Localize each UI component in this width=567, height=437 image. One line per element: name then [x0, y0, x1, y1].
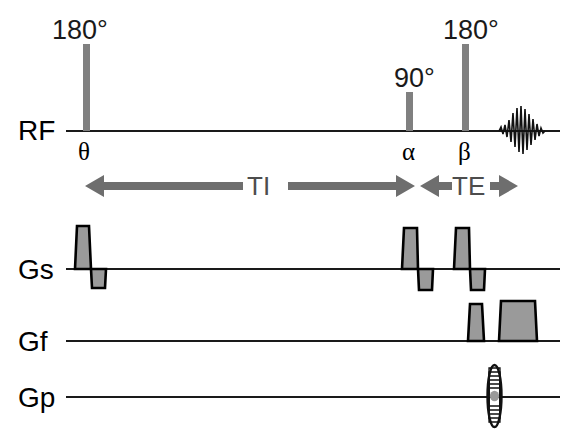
te-arrow-left	[420, 175, 452, 197]
gp-channel: Gp	[18, 365, 560, 427]
rf-pulse-refocus-phase-label: β	[458, 138, 471, 165]
te-arrow-right	[490, 175, 518, 197]
rf-pulse-refocus	[462, 44, 469, 131]
rf-pulse-inversion	[83, 44, 90, 131]
rf-pulse-inversion-phase-label: θ	[78, 138, 90, 165]
rf-pulse-refocus-flip-label: 180°	[443, 15, 499, 45]
gf-lobe-2	[499, 301, 537, 341]
te-label: TE	[452, 171, 485, 201]
gs-lobe-3	[402, 228, 418, 269]
gf-channel: Gf	[18, 301, 560, 357]
rf-channel-label: RF	[18, 115, 55, 146]
ti-arrow-left	[85, 175, 243, 197]
rf-channel: RF 180° θ 90° α 180° β	[18, 15, 560, 165]
gf-lobe-1	[468, 304, 484, 341]
interval-ti: TI	[85, 171, 415, 201]
pulse-sequence-diagram: RF 180° θ 90° α 180° β	[0, 0, 567, 437]
gs-channel-label: Gs	[18, 254, 54, 285]
gs-lobe-6	[470, 269, 485, 290]
gf-channel-label: Gf	[18, 326, 48, 357]
gs-lobe-1	[75, 226, 91, 269]
pulse-sequence-canvas: RF 180° θ 90° α 180° β	[0, 0, 567, 437]
rf-pulse-excitation	[406, 92, 413, 131]
interval-te: TE	[420, 171, 518, 201]
gs-lobe-2	[91, 269, 106, 288]
interval-arrows: TI TE	[85, 171, 518, 201]
rf-pulse-inversion-flip-label: 180°	[52, 15, 108, 45]
gs-lobe-5	[454, 228, 470, 269]
gs-lobe-4	[418, 269, 433, 290]
ti-label: TI	[247, 171, 270, 201]
rf-pulse-excitation-flip-label: 90°	[394, 63, 435, 93]
gs-channel: Gs	[18, 226, 560, 290]
echo-waveform	[499, 106, 545, 154]
gp-lobe-1	[488, 365, 502, 427]
gp-channel-label: Gp	[18, 382, 55, 413]
rf-pulse-excitation-phase-label: α	[402, 138, 415, 165]
ti-arrow-right	[288, 175, 415, 197]
